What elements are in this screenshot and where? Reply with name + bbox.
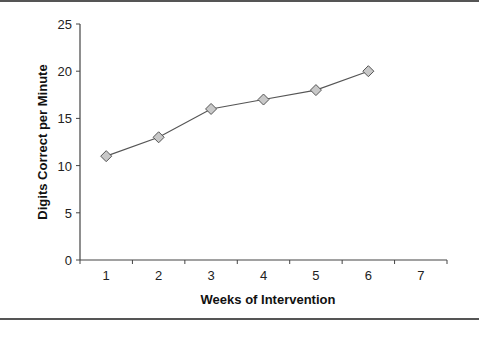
y-tick-label: 15 (58, 111, 72, 126)
x-tick-label: 3 (207, 268, 214, 283)
data-series (101, 66, 374, 162)
data-point-diamond-icon (363, 66, 374, 77)
x-tick-label: 6 (365, 268, 372, 283)
axes (80, 24, 447, 260)
x-tick-label: 2 (155, 268, 162, 283)
data-point-diamond-icon (101, 151, 112, 162)
x-axis-title: Weeks of Intervention (201, 292, 336, 307)
series-line (106, 71, 368, 156)
y-tick-label: 25 (58, 17, 72, 32)
y-tick-label: 0 (65, 253, 72, 268)
y-tick-label: 20 (58, 64, 72, 79)
y-axis-ticks: 0510152025 (58, 17, 80, 268)
y-axis-title: Digits Correct per Minute (35, 64, 50, 219)
x-axis-ticks: 1234567 (80, 260, 447, 283)
data-point-diamond-icon (206, 103, 217, 114)
y-tick-label: 10 (58, 159, 72, 174)
data-point-diamond-icon (258, 94, 269, 105)
x-tick-label: 7 (417, 268, 424, 283)
y-tick-label: 5 (65, 206, 72, 221)
x-tick-label: 4 (260, 268, 267, 283)
data-point-diamond-icon (153, 132, 164, 143)
data-point-diamond-icon (310, 85, 321, 96)
x-tick-label: 1 (103, 268, 110, 283)
x-tick-label: 5 (312, 268, 319, 283)
line-chart: 0510152025 1234567 Weeks of Intervention… (0, 0, 479, 340)
